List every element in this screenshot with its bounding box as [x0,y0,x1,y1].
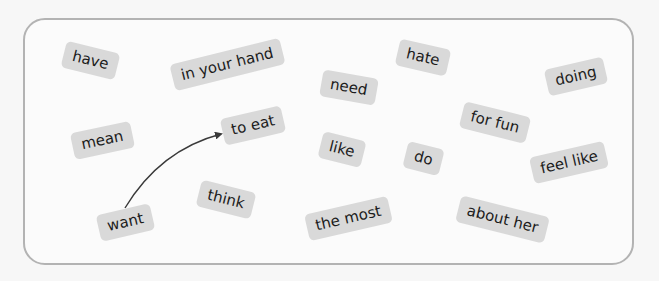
tile-label: to eat [229,111,276,138]
tile-label: have [70,46,110,72]
tile-label: think [206,185,247,212]
tile-label: mean [79,126,124,152]
tile-label: want [105,209,145,235]
tile-label: hate [405,44,442,69]
tile-label: like [327,137,356,161]
tile-label: do [412,147,435,169]
tile-label: doing [553,62,598,89]
tile-label: need [329,74,369,98]
